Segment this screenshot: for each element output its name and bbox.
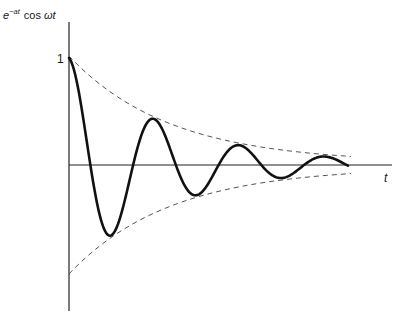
- upper-envelope: [69, 56, 351, 156]
- y-label-t: t: [52, 9, 56, 21]
- x-axis-label: t: [384, 171, 388, 185]
- y-label-cos: cos: [24, 9, 42, 21]
- damped-cosine-curve: [69, 58, 348, 236]
- y-axis-label: e−atcosωt: [3, 7, 56, 21]
- lower-envelope: [69, 174, 351, 274]
- damped-oscillation-diagram: e−atcosωt 1 t: [0, 0, 409, 320]
- y-tick-one: 1: [57, 52, 64, 66]
- y-label-exponent: −at: [9, 7, 21, 16]
